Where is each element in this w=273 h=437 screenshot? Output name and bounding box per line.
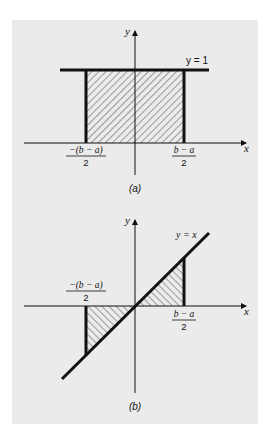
- left-label-num-b: −(b − a): [69, 280, 102, 291]
- left-label-num-a: −(b − a): [69, 145, 102, 156]
- right-label-num-b: b − a: [174, 309, 195, 319]
- right-label-den-a: 2: [181, 157, 186, 168]
- right-label-den-b: 2: [181, 321, 186, 332]
- right-label-num-a: b − a: [174, 145, 195, 155]
- left-label-den-b: 2: [83, 292, 88, 303]
- y-axis-label-b: y: [124, 214, 130, 226]
- left-label-den-a: 2: [83, 157, 88, 168]
- caption-b: (b): [129, 401, 141, 412]
- curve-label-a: y = 1: [186, 55, 208, 66]
- y-axis-label-a: y: [124, 25, 130, 37]
- curve-label-b: y = x: [175, 229, 197, 240]
- caption-a: (a): [129, 183, 141, 194]
- figure-diagram: y x y = 1 −(b − a) 2 b − a 2 (a) y x y =…: [0, 0, 273, 437]
- x-axis-label-a: x: [243, 142, 249, 154]
- x-axis-label-b: x: [243, 305, 249, 317]
